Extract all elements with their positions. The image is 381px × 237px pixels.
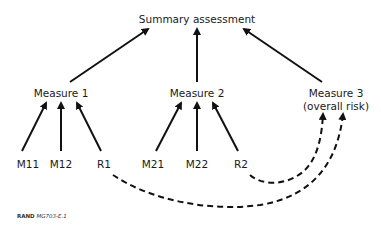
arrow-measure1-to-summary [70, 29, 148, 82]
node-r2: R2 [234, 158, 248, 171]
figure-credit: RAND MG703-E.1 [17, 213, 67, 219]
credit-figure-id: MG703-E.1 [36, 213, 66, 219]
arrow-measure3-to-summary [244, 29, 322, 82]
arrow-m11-to-measure1 [22, 103, 46, 151]
arrow-r2-to-measure2 [213, 103, 238, 151]
measure-3-subtitle: (overall risk) [303, 100, 369, 113]
node-measure-1: Measure 1 [34, 87, 89, 100]
credit-org: RAND [17, 213, 35, 219]
arrow-m21-to-measure2 [156, 103, 181, 151]
node-m12: M12 [50, 158, 72, 171]
diagram-connectors [0, 0, 381, 237]
node-m21: M21 [142, 158, 164, 171]
node-summary-assessment: Summary assessment [139, 13, 255, 26]
node-measure-2: Measure 2 [170, 87, 225, 100]
measure-3-title: Measure 3 [303, 87, 369, 100]
dashed-arrow-r2-to-measure3 [250, 114, 323, 183]
node-measure-3: Measure 3 (overall risk) [303, 87, 369, 113]
node-m11: M11 [17, 158, 39, 171]
node-m22: M22 [186, 158, 208, 171]
arrow-r1-to-measure1 [77, 103, 101, 151]
node-r1: R1 [97, 158, 111, 171]
